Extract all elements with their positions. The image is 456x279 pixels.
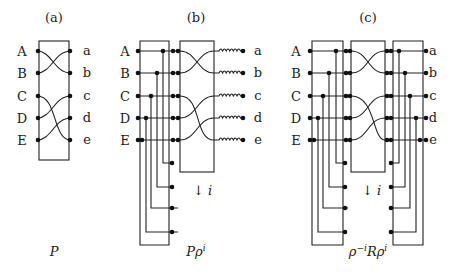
spring-coil — [214, 116, 243, 118]
caption-rho: ρ — [348, 244, 357, 259]
output-label-e: e — [429, 132, 437, 147]
input-dot — [136, 71, 141, 76]
input-dot — [36, 116, 41, 121]
panel-a-wires — [37, 51, 71, 140]
contact-dot — [348, 94, 353, 99]
input-dot — [36, 49, 41, 54]
contact-dot — [348, 71, 353, 76]
contact-dot — [171, 71, 176, 76]
input-dot — [308, 138, 313, 143]
output-label-e: e — [254, 132, 262, 147]
stub-dot — [343, 206, 348, 211]
spring-coil — [214, 94, 243, 96]
output-dot — [241, 49, 246, 54]
input-label-C: C — [120, 89, 130, 104]
panel-a: (a) ABCDEabcde P — [16, 10, 91, 259]
contact-dot — [176, 94, 181, 99]
output-label-b: b — [254, 65, 262, 80]
output-dot — [424, 94, 429, 99]
contact-dot — [348, 116, 353, 121]
spring-coil — [214, 49, 243, 51]
input-dot — [36, 94, 41, 99]
rotor-permutation-diagram: (a) ABCDEabcde P (b) — [0, 0, 456, 279]
contact-dot — [348, 138, 353, 143]
panel-b-title: (b) — [187, 10, 205, 25]
input-dot — [136, 138, 141, 143]
contact-dot — [344, 71, 349, 76]
input-dot — [36, 71, 41, 76]
input-dot — [136, 49, 141, 54]
stub-dot — [389, 161, 394, 166]
tap-dot — [161, 49, 166, 54]
tap-dot — [414, 116, 419, 121]
input-label-C: C — [291, 89, 301, 104]
wire-C-e — [37, 96, 71, 140]
output-dot — [424, 138, 429, 143]
tap-dot — [149, 94, 154, 99]
input-dot — [308, 71, 313, 76]
contact-dot — [385, 71, 390, 76]
tap-dot — [334, 49, 339, 54]
contact-dot — [344, 49, 349, 54]
tap-dot — [397, 49, 402, 54]
contact-dot — [171, 49, 176, 54]
panel-a-caption: P — [49, 244, 59, 259]
tap-dot — [140, 138, 145, 143]
contact-dot — [348, 49, 353, 54]
output-dot — [68, 71, 73, 76]
panel-b-arrow-label: ↓ i — [193, 183, 212, 198]
contact-dot — [385, 116, 390, 121]
output-label-b: b — [429, 65, 437, 80]
panel-b-rho-box — [140, 41, 169, 245]
wire-B-a — [37, 51, 71, 73]
output-dot — [68, 138, 73, 143]
tap-dot — [418, 138, 423, 143]
tap-dot — [327, 71, 332, 76]
tap-dot — [408, 94, 413, 99]
panel-b-wires — [138, 49, 243, 232]
contact-dot — [389, 116, 394, 121]
input-label-E: E — [17, 133, 27, 148]
input-dot — [308, 49, 313, 54]
panel-a-box — [39, 41, 69, 160]
input-dot — [36, 138, 41, 143]
stub-dot — [343, 161, 348, 166]
contact-dot — [389, 71, 394, 76]
input-label-A: A — [119, 44, 130, 59]
stub-dot — [389, 185, 394, 190]
output-dot — [241, 71, 246, 76]
input-label-B: B — [17, 66, 27, 81]
wire-E-d — [37, 118, 71, 140]
contact-dot — [344, 116, 349, 121]
tap-dot — [312, 138, 317, 143]
spring-coil — [214, 138, 243, 140]
stub-dot — [343, 230, 348, 235]
contact-dot — [344, 94, 349, 99]
stub-dot — [170, 185, 175, 190]
contact-dot — [385, 94, 390, 99]
stub-dot — [170, 206, 175, 211]
input-dot — [308, 116, 313, 121]
contact-dot — [176, 49, 181, 54]
output-label-a: a — [254, 43, 262, 58]
input-label-A: A — [290, 44, 301, 59]
output-label-d: d — [254, 110, 262, 125]
input-label-C: C — [17, 89, 27, 104]
input-label-D: D — [17, 111, 27, 126]
output-dot — [424, 71, 429, 76]
output-dot — [68, 49, 73, 54]
output-label-e: e — [83, 132, 91, 147]
input-dot — [136, 94, 141, 99]
input-dot — [308, 94, 313, 99]
input-label-E: E — [120, 133, 130, 148]
output-dot — [241, 138, 246, 143]
stub-dot — [343, 185, 348, 190]
caption-exp: i — [384, 243, 387, 253]
output-dot — [424, 49, 429, 54]
contact-dot — [389, 49, 394, 54]
input-label-A: A — [16, 44, 27, 59]
panel-c: (c) ABCDEabcde — [290, 10, 437, 259]
input-dot — [136, 116, 141, 121]
output-label-c: c — [254, 88, 261, 103]
contact-dot — [385, 49, 390, 54]
